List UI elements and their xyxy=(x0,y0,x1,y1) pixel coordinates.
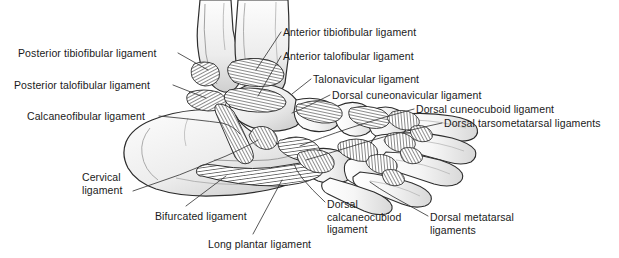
label-dorsal-tarsometatarsal-ligaments: Dorsal tarsometatarsal ligaments xyxy=(444,117,601,130)
label-cervical-ligament: Cervical ligament xyxy=(82,171,123,196)
posterior-tibiofibular-ligament-shape xyxy=(191,62,219,86)
label-posterior-tibiofibular-ligament: Posterior tibiofibular ligament xyxy=(18,47,157,60)
label-calcaneofibular-ligament: Calcaneofibular ligament xyxy=(27,110,145,123)
label-dorsal-cuneocuboid-ligament: Dorsal cuneocuboid ligament xyxy=(416,103,554,116)
label-posterior-talofibular-ligament: Posterior talofibular ligament xyxy=(14,79,150,92)
label-talonavicular-ligament: Talonavicular ligament xyxy=(313,73,419,86)
label-anterior-tibiofibular-ligament: Anterior tibiofibular ligament xyxy=(283,26,416,39)
label-dorsal-calcaneocuboid-ligament: Dorsal calcaneocubiod ligament xyxy=(327,198,401,236)
anterior-tibiofibular-ligament-shape xyxy=(228,58,284,86)
label-cervical-ligament-line-2: ligament xyxy=(82,184,123,197)
leader-talonavicular xyxy=(292,79,311,94)
label-bifurcated-ligament: Bifurcated ligament xyxy=(155,210,247,223)
label-dorsal-metatarsal-ligaments: Dorsal metatarsal ligaments xyxy=(430,211,514,236)
label-dorsal-metatarsal-line-2: ligaments xyxy=(430,224,514,237)
label-anterior-talofibular-ligament: Anterior talofibular ligament xyxy=(283,50,414,63)
label-dorsal-calcaneocuboid-line-2: calcaneocubiod xyxy=(327,211,401,224)
anatomical-figure: Posterior tibiofibular ligament Posterio… xyxy=(0,0,619,258)
label-dorsal-calcaneocuboid-line-1: Dorsal xyxy=(327,198,401,211)
label-dorsal-calcaneocuboid-line-3: ligament xyxy=(327,223,401,236)
label-cervical-ligament-line-1: Cervical xyxy=(82,171,123,184)
label-long-plantar-ligament: Long plantar ligament xyxy=(208,238,311,251)
label-dorsal-metatarsal-line-1: Dorsal metatarsal xyxy=(430,211,514,224)
label-dorsal-cuneonavicular-ligament: Dorsal cuneonavicular ligament xyxy=(332,89,482,102)
